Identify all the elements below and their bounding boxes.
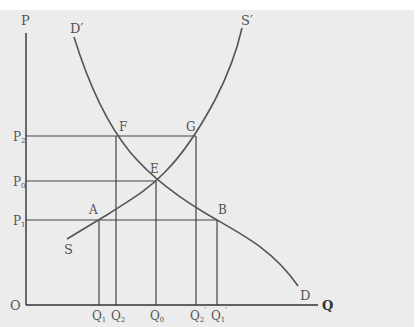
point-f-label: F	[119, 120, 127, 134]
q1prime-label: Q1′	[211, 306, 227, 324]
guide-lines	[26, 136, 217, 305]
point-g-label: G	[186, 120, 196, 134]
supply-end-label: S′	[241, 13, 253, 28]
point-a-label: A	[88, 203, 98, 217]
point-e-label: E	[150, 162, 159, 176]
p2-label: P2	[13, 130, 26, 145]
quantity-axis-label: Q	[322, 298, 333, 313]
point-labels: F G E A B	[88, 120, 227, 217]
axes	[26, 33, 318, 305]
demand-curve	[74, 37, 298, 286]
supply-demand-chart: P Q O D′ D S S′ P2 P0 P1 Q1 Q2 Q0 Q2′ Q1…	[0, 0, 420, 327]
origin-label: O	[10, 298, 21, 313]
demand-start-label: D′	[70, 21, 83, 36]
supply-start-label: S	[64, 242, 73, 257]
demand-end-label: D	[300, 288, 310, 303]
q2-label: Q2	[111, 309, 125, 324]
point-b-label: B	[218, 203, 227, 217]
p1-label: P1	[13, 214, 26, 229]
price-labels: P2 P0 P1	[13, 130, 26, 229]
q2prime-label: Q2′	[190, 306, 206, 324]
price-axis-label: P	[21, 13, 30, 28]
p0-label: P0	[13, 175, 26, 190]
quantity-labels: Q1 Q2 Q0 Q2′ Q1′	[92, 306, 227, 324]
q0-label: Q0	[150, 309, 164, 324]
q1-label: Q1	[92, 309, 106, 324]
